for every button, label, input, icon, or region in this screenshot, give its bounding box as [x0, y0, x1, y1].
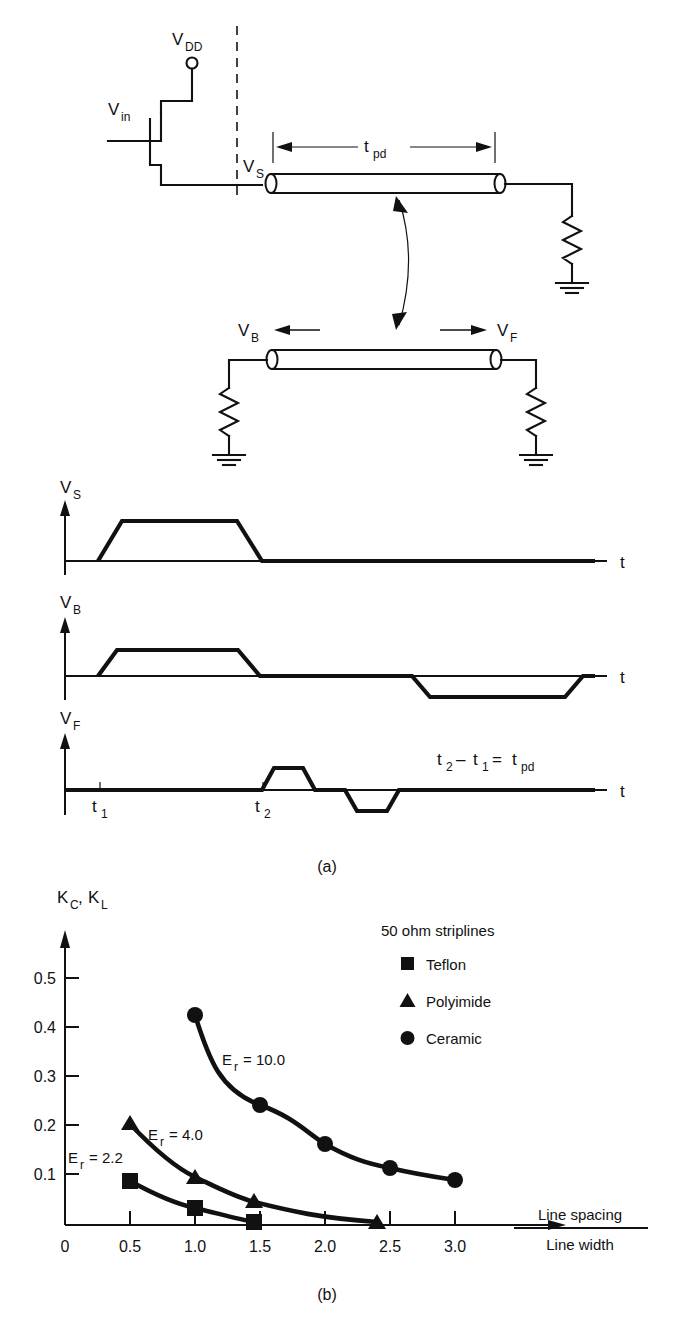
legend-label-polyimide: Polyimide: [426, 993, 491, 1010]
coupled-line-right-end-icon: [491, 350, 502, 369]
waveform-vb-label-text: V: [60, 593, 72, 612]
v-f-label-sub: F: [510, 331, 517, 345]
tpd-right-arrowhead-icon: [476, 142, 492, 152]
transistor-channel-icon: [150, 113, 161, 185]
chart-annotation-er-4: E r = 4.0: [148, 1126, 203, 1149]
waveform-vf-t1-label-text: t: [92, 797, 97, 816]
tpd-dimension: t pd: [273, 132, 495, 163]
ground-symbol-2-icon: [213, 455, 245, 465]
chart-point-ceramic-3: [382, 1160, 398, 1176]
waveform-vs-trace: [98, 521, 595, 561]
waveform-vb-trace: [98, 650, 595, 697]
coupling-arrow-head-down-icon: [392, 312, 407, 330]
v-dd-label-sub: DD: [185, 40, 203, 54]
coupled-line-near-termination-wire: [229, 360, 267, 388]
chart-point-ceramic-1: [252, 1097, 268, 1113]
coupled-transmission-line: [267, 350, 502, 369]
driven-line-termination-wire: [505, 184, 572, 216]
tpd-left-arrowhead-icon: [276, 142, 292, 152]
legend-label-teflon: Teflon: [426, 956, 466, 973]
waveform-vb: V B t: [60, 593, 625, 700]
v-s-node-label: V S: [243, 157, 264, 181]
driven-line-body: [271, 174, 500, 193]
legend-label-ceramic: Ceramic: [426, 1030, 482, 1047]
chart-annotation-er-2p2-value: = 2.2: [89, 1149, 123, 1166]
waveform-vf-t2-label: t 2: [255, 797, 271, 821]
chart-panel: K C , K L 0.5 0.4 0.3 0.2 0.1: [34, 888, 648, 1255]
waveform-vf-t2-label-text: t: [255, 797, 260, 816]
waveform-vf-y-axis-arrowhead-icon: [60, 733, 70, 749]
chart-annotation-er-4-sub: r: [160, 1135, 164, 1149]
waveform-vs-label-text: V: [60, 478, 72, 497]
chart-annotation-er-2p2-e: E: [68, 1149, 78, 1166]
coupling-arrow-head-up-icon: [393, 196, 408, 213]
termination-resistor-3-icon: [527, 388, 545, 436]
tpd-equation-equals: =: [492, 750, 502, 769]
vdd-lead-wire: [161, 69, 192, 113]
chart-y-axis-title: K C , K L: [57, 888, 108, 912]
ground-symbol-3-icon: [520, 455, 552, 465]
chart-annotation-er-2p2: E r = 2.2: [68, 1149, 123, 1172]
chart-point-teflon-0: [122, 1173, 138, 1189]
chart-annotation-er-2p2-sub: r: [80, 1158, 84, 1172]
v-f-label-text: V: [497, 321, 509, 340]
chart-x-ticklabel-3: 1.5: [249, 1238, 271, 1255]
chart-annotation-er-4-value: = 4.0: [169, 1126, 203, 1143]
waveform-vf-t-axis-label: t: [620, 782, 625, 801]
waveform-vf-label-text: V: [60, 709, 72, 728]
circuit-diagram: V in V DD V S t pd: [108, 26, 588, 465]
tpd-equation-minus: –: [456, 750, 466, 769]
termination-resistor-2-icon: [220, 388, 238, 436]
tpd-equation-t1: t: [473, 750, 478, 769]
chart-series-ceramic: E r = 10.0: [187, 1007, 463, 1188]
chart-x-ticklabel-1: 0.5: [119, 1238, 141, 1255]
v-b-label-text: V: [238, 321, 250, 340]
waveform-vf-t1-label-sub: 1: [101, 807, 108, 821]
waveform-vf-t1-label: t 1: [92, 797, 108, 821]
figure-canvas: V in V DD V S t pd: [0, 0, 685, 1321]
tpd-equation-t1-sub: 1: [482, 760, 489, 774]
tpd-equation-tpd-sub: pd: [521, 760, 534, 774]
chart-y-ticklabel-4: 0.1: [34, 1166, 56, 1183]
v-b-annotation: V B: [238, 321, 320, 345]
waveform-vb-t-axis-label: t: [620, 668, 625, 687]
chart-x-ticklabel-2: 1.0: [184, 1238, 206, 1255]
vdd-terminal-icon: [187, 58, 198, 69]
chart-x-axis-title: Line spacing Line width: [514, 1206, 648, 1253]
chart-x-ticklabel-4: 2.0: [314, 1238, 336, 1255]
driven-transmission-line: [266, 174, 506, 193]
coupling-arrow-curve: [399, 200, 409, 325]
coupled-line-far-termination-wire: [501, 360, 536, 388]
chart-x-axis-title-numerator: Line spacing: [538, 1206, 622, 1223]
chart-annotation-er-10: E r = 10.0: [222, 1051, 285, 1074]
ground-symbol-1-icon: [556, 283, 588, 293]
v-dd-label-text: V: [172, 30, 184, 49]
v-s-node-label-sub: S: [256, 167, 264, 181]
chart-series-ceramic-line: [195, 1015, 455, 1180]
chart-point-polyimide-0: [121, 1115, 139, 1130]
v-in-label-sub: in: [121, 110, 130, 124]
chart-y-axis-title-k1: K: [57, 888, 69, 907]
chart-y-ticklabel-2: 0.3: [34, 1068, 56, 1085]
waveform-vs: V S t: [60, 478, 625, 575]
chart-y-ticklabel-0: 0.5: [34, 970, 56, 987]
v-b-label-sub: B: [251, 331, 259, 345]
chart-y-ticklabel-1: 0.4: [34, 1019, 56, 1036]
v-f-arrowhead-icon: [471, 325, 487, 335]
tpd-equation: t 2 – t 1 = t pd: [437, 750, 534, 774]
chart-series-teflon: E r = 2.2: [68, 1149, 262, 1230]
termination-resistor-1-icon: [563, 216, 581, 264]
waveform-vs-y-axis-arrowhead-icon: [60, 500, 70, 516]
chart-annotation-er-10-e: E: [222, 1051, 232, 1068]
chart-x-ticks: 0 0.5 1.0 1.5 2.0 2.5 3.0: [61, 1211, 467, 1255]
chart-y-ticklabel-3: 0.2: [34, 1117, 56, 1134]
driven-line-left-end-icon: [266, 174, 277, 193]
tpd-equation-t2: t: [437, 750, 442, 769]
waveform-vb-label-sub: B: [73, 603, 81, 617]
legend-marker-circle-icon: [401, 1031, 415, 1045]
chart-point-ceramic-4: [447, 1172, 463, 1188]
v-s-node-label-text: V: [243, 157, 255, 176]
chart-x-axis-title-denominator: Line width: [546, 1236, 614, 1253]
chart-point-teflon-2: [246, 1214, 262, 1230]
panel-b-caption: (b): [317, 1286, 337, 1303]
